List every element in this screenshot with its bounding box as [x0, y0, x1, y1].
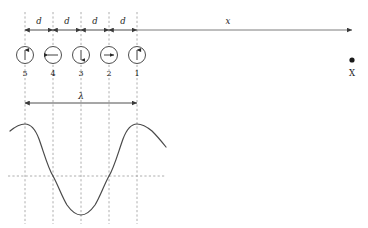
- particle-3: 3: [73, 47, 90, 79]
- spacing-label-d1: d: [36, 16, 42, 26]
- particle-4: 4: [45, 47, 62, 79]
- spacing-label-d4: d: [120, 16, 126, 26]
- spacing-label-d3: d: [92, 16, 98, 26]
- observation-point-group: X: [349, 57, 356, 78]
- distance-label-x: x: [226, 16, 231, 26]
- guide-lines-group: [25, 12, 137, 224]
- particle-label-5: 5: [22, 69, 27, 78]
- wavelength-label: λ: [77, 91, 84, 101]
- observation-point-label: X: [349, 68, 356, 78]
- particle-label-3: 3: [78, 69, 83, 78]
- particle-2: 2: [101, 47, 118, 79]
- particle-label-2: 2: [106, 69, 111, 78]
- particle-label-4: 4: [50, 69, 55, 78]
- particle-label-1: 1: [134, 69, 139, 78]
- spacing-label-d2: d: [64, 16, 70, 26]
- wave-diagram-figure: d d d d x 5 4 3: [0, 0, 368, 228]
- observation-point-dot: [349, 57, 354, 62]
- particle-5: 5: [17, 47, 34, 79]
- particle-1: 1: [129, 47, 146, 79]
- wave-curve: [10, 124, 166, 215]
- diagram-canvas: d d d d x 5 4 3: [0, 0, 368, 228]
- particles-group: 5 4 3 2 1: [17, 47, 146, 79]
